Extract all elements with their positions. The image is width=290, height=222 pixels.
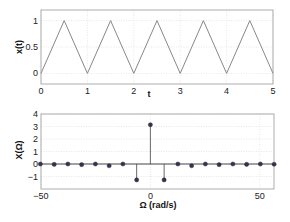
stem-marker	[272, 162, 276, 166]
frequency-domain-plot: −50050−101234Ω (rad/s)X(Ω)	[14, 109, 276, 210]
x-axis-label: Ω (rad/s)	[139, 200, 176, 210]
chart-figure: 01234500.51tx(t) −50050−101234Ω (rad/s)X…	[0, 0, 290, 222]
x-tick-label: −50	[33, 191, 48, 201]
y-tick-label: 1	[33, 147, 38, 157]
stem-marker	[93, 162, 97, 166]
x-tick-label: 2	[131, 86, 136, 96]
y-axis-label: x(t)	[14, 40, 24, 54]
stem-marker	[162, 178, 166, 182]
stem-marker	[190, 164, 194, 168]
time-domain-plot: 01234500.51tx(t)	[14, 10, 276, 99]
x-axis-label: t	[148, 89, 151, 99]
x-tick-label: 50	[255, 191, 265, 201]
y-axis-label: X(Ω)	[14, 140, 24, 159]
stem-marker	[38, 162, 42, 166]
stem-marker	[148, 123, 152, 127]
x-tick-label: 3	[178, 86, 183, 96]
stem-marker	[66, 162, 70, 166]
stem-marker	[217, 163, 221, 167]
y-tick-label: 2	[33, 134, 38, 144]
stem-marker	[176, 162, 180, 166]
x-tick-label: 4	[224, 86, 229, 96]
stem-marker	[80, 163, 84, 167]
x-tick-label: 1	[85, 86, 90, 96]
stem-marker	[107, 164, 111, 168]
stem-marker	[245, 162, 249, 166]
y-tick-label: 0	[33, 68, 38, 78]
y-tick-label: 0	[33, 159, 38, 169]
y-tick-label: 0.5	[25, 42, 38, 52]
y-tick-label: −1	[28, 172, 38, 182]
y-tick-label: 3	[33, 122, 38, 132]
stem-marker	[135, 178, 139, 182]
x-tick-label: 5	[270, 86, 275, 96]
stem-marker	[121, 162, 125, 166]
y-tick-label: 1	[33, 16, 38, 26]
stem-marker	[258, 162, 262, 166]
stem-marker	[231, 162, 235, 166]
stem-marker	[52, 162, 56, 166]
y-tick-label: 4	[33, 109, 38, 119]
stem-marker	[203, 162, 207, 166]
x-tick-label: 0	[38, 86, 43, 96]
